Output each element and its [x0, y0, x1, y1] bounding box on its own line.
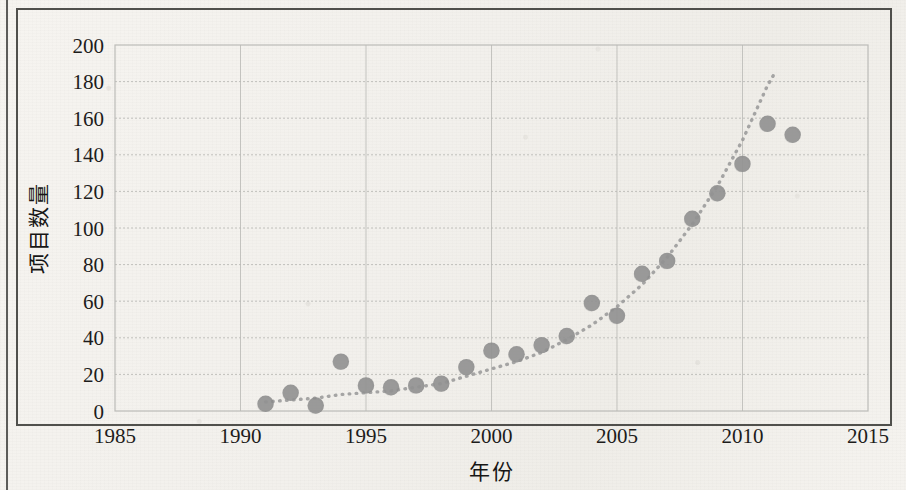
y-tick-label: 60 [83, 290, 104, 314]
y-tick-label: 200 [73, 34, 105, 58]
x-tick-label: 2010 [722, 424, 764, 448]
y-axis-title: 项目数量 [27, 182, 51, 274]
y-axis-tick-labels: 020406080100120140160180200 [73, 34, 105, 424]
y-tick-label: 0 [94, 400, 105, 424]
x-tick-label: 2000 [471, 424, 513, 448]
x-axis-tick-labels: 1985199019952000200520102015 [94, 424, 889, 448]
y-tick-label: 100 [73, 217, 105, 241]
y-tick-label: 180 [73, 70, 105, 94]
scatter-chart: 020406080100120140160180200 198519901995… [0, 0, 906, 490]
x-tick-label: 2015 [847, 424, 889, 448]
x-tick-label: 2005 [596, 424, 638, 448]
y-tick-label: 80 [83, 253, 104, 277]
x-tick-label: 1995 [345, 424, 387, 448]
x-axis-title: 年份 [469, 460, 515, 484]
y-tick-label: 120 [73, 180, 105, 204]
y-tick-label: 140 [73, 143, 105, 167]
x-tick-label: 1985 [94, 424, 136, 448]
y-tick-label: 40 [83, 326, 104, 350]
y-tick-label: 160 [73, 107, 105, 131]
x-tick-label: 1990 [220, 424, 262, 448]
y-tick-label: 20 [83, 363, 104, 387]
